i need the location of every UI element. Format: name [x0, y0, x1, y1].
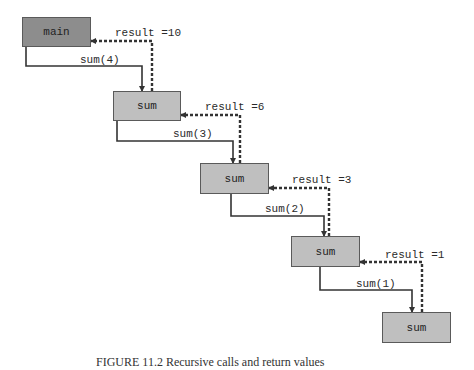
call-arrow-1: [26, 46, 142, 91]
node-label: main: [43, 26, 69, 38]
return-label-3: result =3: [292, 174, 351, 186]
return-label-2: result =6: [205, 101, 264, 113]
node-label: sum: [316, 246, 336, 258]
call-label-2: sum(3): [173, 128, 213, 140]
node-label: sum: [407, 322, 427, 334]
node-sum-2: sum: [200, 163, 269, 194]
node-sum-1: sum: [113, 91, 181, 121]
node-sum-4: sum: [382, 312, 451, 343]
node-label: sum: [137, 100, 157, 112]
call-label-3: sum(2): [265, 203, 305, 215]
figure-caption: FIGURE 11.2 Recursive calls and return v…: [96, 355, 325, 370]
node-main: main: [22, 17, 91, 47]
node-label: sum: [225, 173, 245, 185]
call-arrow-2: [117, 120, 233, 163]
call-label-4: sum(1): [356, 278, 396, 290]
return-label-4: result =1: [385, 249, 444, 261]
return-label-1: result =10: [115, 27, 181, 39]
call-label-1: sum(4): [80, 54, 120, 66]
node-sum-3: sum: [291, 236, 360, 267]
